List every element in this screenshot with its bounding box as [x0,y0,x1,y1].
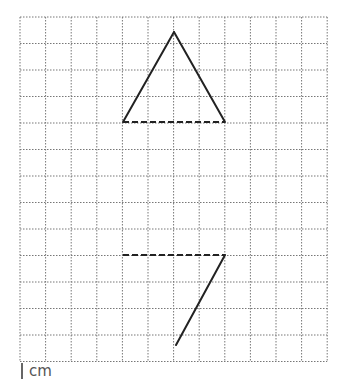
unit-length-bar [21,363,23,379]
lower-solid-segment [176,255,225,345]
unit-label: cm [29,362,52,380]
scale-legend: cm [21,362,52,380]
grid-diagram [0,0,341,392]
